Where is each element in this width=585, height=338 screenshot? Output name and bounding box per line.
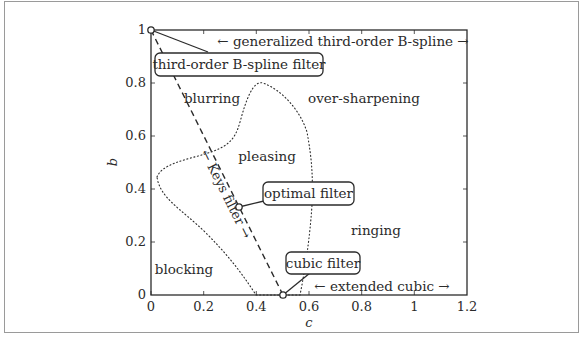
y-axis-label: b bbox=[105, 158, 120, 166]
svg-text:0.2: 0.2 bbox=[193, 299, 214, 314]
region-pleasing: pleasing bbox=[238, 148, 296, 164]
cubic-filter-label: cubic filter bbox=[286, 255, 361, 271]
svg-text:0.8: 0.8 bbox=[351, 299, 372, 314]
cubic-callout-leader bbox=[283, 273, 310, 295]
svg-text:1: 1 bbox=[410, 299, 418, 314]
svg-text:0.2: 0.2 bbox=[125, 234, 146, 249]
bspline-point bbox=[148, 27, 154, 33]
optimal-callout-leader bbox=[239, 201, 264, 207]
filter-parameter-diagram: 0 0.2 0.4 0.6 0.8 1 1.2 0 0.2 0.4 0.6 0.… bbox=[0, 0, 585, 338]
cubic-point bbox=[280, 292, 286, 298]
svg-text:0.8: 0.8 bbox=[125, 75, 146, 90]
x-tick-labels: 0 0.2 0.4 0.6 0.8 1 1.2 bbox=[147, 299, 477, 314]
svg-text:1.2: 1.2 bbox=[457, 299, 478, 314]
region-blocking: blocking bbox=[155, 261, 214, 277]
svg-text:0.6: 0.6 bbox=[299, 299, 320, 314]
region-over-sharpening: over-sharpening bbox=[308, 90, 420, 106]
generalized-bspline-label: ← generalized third-order B-spline → bbox=[217, 33, 468, 49]
svg-text:0: 0 bbox=[147, 299, 155, 314]
optimal-point bbox=[236, 204, 242, 210]
bspline-filter-label: third-order B-spline filter bbox=[152, 56, 326, 72]
y-tick-labels: 0 0.2 0.4 0.6 0.8 1 bbox=[125, 22, 146, 302]
svg-text:0.4: 0.4 bbox=[125, 181, 146, 196]
region-ringing: ringing bbox=[351, 222, 401, 238]
svg-text:0.6: 0.6 bbox=[125, 128, 146, 143]
x-axis-label: c bbox=[305, 315, 313, 330]
svg-text:0.4: 0.4 bbox=[246, 299, 267, 314]
svg-text:1: 1 bbox=[138, 22, 146, 37]
region-blurring: blurring bbox=[184, 90, 241, 106]
optimal-filter-label: optimal filter bbox=[264, 185, 354, 201]
svg-text:0: 0 bbox=[138, 287, 146, 302]
extended-cubic-label: ← extended cubic → bbox=[314, 278, 449, 294]
